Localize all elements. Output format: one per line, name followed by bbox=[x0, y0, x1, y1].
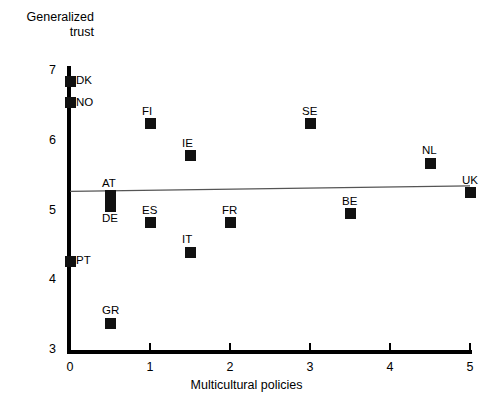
data-point-label-pt: PT bbox=[76, 255, 91, 267]
data-point-label-no: NO bbox=[76, 97, 93, 109]
data-point-no bbox=[65, 97, 76, 108]
data-point-label-nl: NL bbox=[422, 145, 437, 157]
data-point-label-de: DE bbox=[102, 213, 118, 225]
data-point-label-be: BE bbox=[342, 196, 357, 208]
data-point-label-se: SE bbox=[302, 106, 317, 118]
trend-line bbox=[0, 0, 493, 409]
data-point-ie bbox=[185, 150, 196, 161]
data-point-fi bbox=[145, 118, 156, 129]
data-point-es bbox=[145, 217, 156, 228]
data-point-be bbox=[345, 208, 356, 219]
data-point-uk bbox=[465, 187, 476, 198]
scatter-chart: Generalized trust 34567 012345 DKNOFISEI… bbox=[0, 0, 493, 409]
data-point-label-es: ES bbox=[142, 205, 157, 217]
data-point-label-ie: IE bbox=[182, 138, 193, 150]
x-axis-title: Multicultural policies bbox=[0, 378, 493, 392]
data-point-label-fi: FI bbox=[142, 106, 152, 118]
data-point-gr bbox=[105, 318, 116, 329]
data-point-label-gr: GR bbox=[102, 305, 119, 317]
data-point-fr bbox=[225, 217, 236, 228]
data-point-label-at: AT bbox=[102, 178, 116, 190]
data-point-se bbox=[305, 118, 316, 129]
data-point-de bbox=[105, 201, 116, 212]
data-point-label-dk: DK bbox=[76, 75, 92, 87]
data-point-label-fr: FR bbox=[222, 205, 237, 217]
data-point-label-uk: UK bbox=[462, 175, 478, 187]
data-point-at bbox=[105, 190, 116, 201]
data-point-dk bbox=[65, 76, 76, 87]
data-point-label-it: IT bbox=[182, 234, 192, 246]
data-point-nl bbox=[425, 158, 436, 169]
data-point-pt bbox=[65, 256, 76, 267]
data-point-it bbox=[185, 247, 196, 258]
